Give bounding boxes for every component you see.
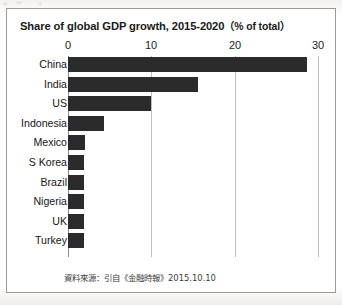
bar-label-us: US — [0, 97, 67, 109]
bar-turkey — [68, 233, 84, 248]
bar-brazil — [68, 175, 84, 190]
x-tick-label-0: 0 — [65, 39, 71, 51]
bar-row: Brazil — [7, 174, 335, 192]
chart-figure-frame: Share of global GDP growth, 2015-2020（% … — [6, 8, 336, 293]
plot-area: 0 10 20 30 China India — [7, 39, 335, 264]
bar-china — [68, 57, 307, 72]
bar-row: US — [7, 95, 335, 113]
chart-title: Share of global GDP growth, 2015-2020（% … — [20, 18, 290, 33]
scan-speckle — [3, 2, 8, 6]
bar-s-korea — [68, 155, 84, 170]
bar-label-indonesia: Indonesia — [0, 117, 67, 129]
bar-label-turkey: Turkey — [0, 234, 67, 246]
bar-row: Nigeria — [7, 193, 335, 211]
x-axis-tick-labels: 0 10 20 30 — [7, 39, 335, 55]
bar-label-brazil: Brazil — [0, 176, 67, 188]
bar-mexico — [68, 135, 85, 150]
bar-label-india: India — [0, 78, 67, 90]
page-background: Share of global GDP growth, 2015-2020（% … — [0, 0, 342, 305]
bar-indonesia — [68, 116, 104, 131]
chart-title-main: Share of global GDP growth, 2015-2020 — [20, 20, 224, 32]
bar-label-s-korea: S Korea — [0, 156, 67, 168]
bar-nigeria — [68, 194, 84, 209]
bar-row: India — [7, 76, 335, 94]
bar-row: Indonesia — [7, 115, 335, 133]
bar-row: S Korea — [7, 154, 335, 172]
bar-row: Turkey — [7, 232, 335, 250]
x-tick-label-10: 10 — [145, 39, 157, 51]
scan-speckle — [38, 2, 42, 5]
x-tick-label-20: 20 — [229, 39, 241, 51]
scan-speckle — [16, 1, 22, 4]
chart-title-unit: （% of total） — [224, 21, 290, 32]
source-note: 資料來源：引自《金融時報》2015.10.10 — [64, 271, 216, 283]
bars-area: China India US Indonesia Mexico — [7, 56, 335, 254]
bar-row: Mexico — [7, 134, 335, 152]
bar-row: China — [7, 56, 335, 74]
bar-uk — [68, 214, 84, 229]
bar-india — [68, 77, 198, 92]
bar-label-uk: UK — [0, 215, 67, 227]
x-tick-label-30: 30 — [312, 39, 324, 51]
bar-label-nigeria: Nigeria — [0, 195, 67, 207]
bar-row: UK — [7, 213, 335, 231]
bar-label-mexico: Mexico — [0, 136, 67, 148]
bar-label-china: China — [0, 58, 67, 70]
bar-us — [68, 96, 151, 111]
